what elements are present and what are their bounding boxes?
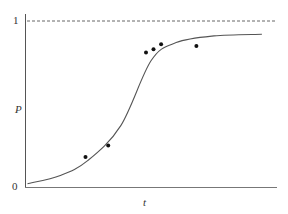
y-tick-1: 1 — [13, 15, 19, 26]
data-point — [144, 51, 148, 55]
x-axis-label: t — [143, 197, 146, 208]
fit-curve — [28, 34, 262, 183]
chart-canvas — [0, 0, 288, 214]
data-point — [106, 144, 110, 148]
data-point — [194, 44, 198, 48]
y-axis-label: P — [15, 104, 22, 115]
logistic-chart: 1 0 P t — [0, 0, 288, 214]
data-point — [159, 42, 163, 46]
data-point — [152, 47, 156, 51]
data-points — [84, 42, 199, 159]
data-point — [84, 155, 88, 159]
y-tick-0: 0 — [12, 181, 18, 192]
